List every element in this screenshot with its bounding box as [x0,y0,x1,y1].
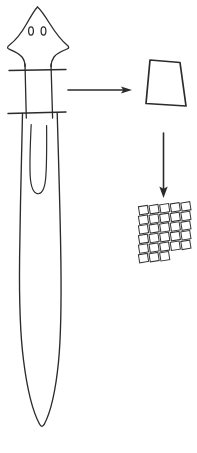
grid-cell [181,211,191,221]
grid-cell [149,252,159,262]
grid-cell [138,225,148,235]
grid-cell [149,204,159,214]
grid-cell [170,203,180,213]
grid-cell [181,202,191,212]
grid-cell [160,242,170,252]
grid-cell [138,215,148,225]
sample-section-shape [146,60,186,106]
crossbar-upper [9,70,66,71]
grid-cell [170,231,180,241]
grid-cell [138,234,148,244]
grid-cell [138,253,148,263]
figure-root [0,0,197,453]
rivet-right [41,27,46,35]
grid-cell [181,221,191,231]
grid-cell [149,214,159,224]
grid-cell [138,205,148,215]
grid-cell [149,233,159,243]
grid-cell [170,241,180,251]
grid-cell [160,203,170,213]
grid-cell [138,244,148,254]
grid-cell [181,240,191,250]
grid-cell [160,223,170,233]
microstructure-cell-grid [138,202,191,263]
dagger-grip [25,64,53,118]
grid-cell [170,222,180,232]
grid-cell [149,224,159,234]
grid-cell [149,243,159,253]
grip-crossbars [8,70,66,114]
grid-cell [160,251,170,261]
artifact-drawing [0,0,197,453]
blade-fuller [30,125,47,194]
arrow-to-microstructure-icon [159,133,167,198]
arrow-to-sample-icon [68,86,132,93]
grid-cell [160,232,170,242]
dagger-blade [19,113,61,426]
pommel-rivets [29,27,46,35]
grid-cell [170,212,180,222]
grid-cell [181,230,191,240]
grid-cell [160,213,170,223]
dagger-pommel [8,7,69,67]
rivet-left [29,27,34,35]
